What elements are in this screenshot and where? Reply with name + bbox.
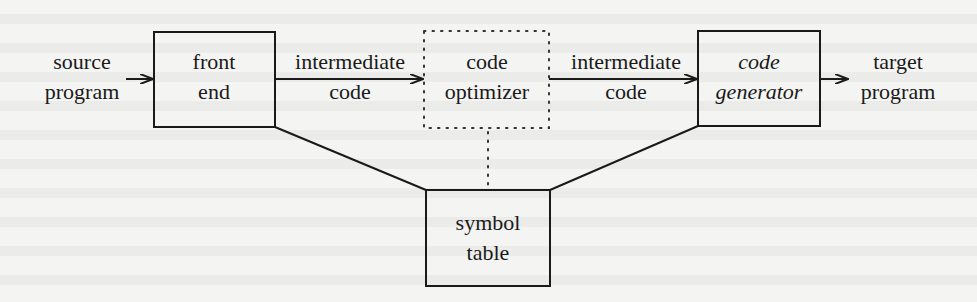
compiler-diagram: source program front end intermediate co… [0, 0, 977, 302]
target-program-label: target program [861, 47, 936, 107]
edge-label-intermediate-code-1: intermediate code [295, 47, 405, 107]
source-label-line1: source [45, 47, 120, 77]
generator-line2: generator [716, 77, 803, 107]
code-generator-label: code generator [716, 47, 803, 107]
generator-line1: code [716, 47, 803, 77]
target-label-line2: program [861, 77, 936, 107]
symbol-table-label: symbol table [456, 208, 521, 268]
optimizer-line2: optimizer [445, 77, 529, 107]
edge1-line1: intermediate [295, 47, 405, 77]
front-end-line1: front [193, 47, 236, 77]
target-label-line1: target [861, 47, 936, 77]
edge-label-intermediate-code-2: intermediate code [571, 47, 681, 107]
edge1-line2: code [295, 77, 405, 107]
symbol-table-line2: table [456, 238, 521, 268]
optimizer-line1: code [445, 47, 529, 77]
code-optimizer-label: code optimizer [445, 47, 529, 107]
front-end-line2: end [193, 77, 236, 107]
front-end-label: front end [193, 47, 236, 107]
source-program-label: source program [45, 47, 120, 107]
connector-front-end-symbol-table [275, 127, 426, 190]
symbol-table-line1: symbol [456, 208, 521, 238]
source-label-line2: program [45, 77, 120, 107]
connector-generator-symbol-table [550, 126, 698, 190]
edge2-line2: code [571, 77, 681, 107]
edge2-line1: intermediate [571, 47, 681, 77]
